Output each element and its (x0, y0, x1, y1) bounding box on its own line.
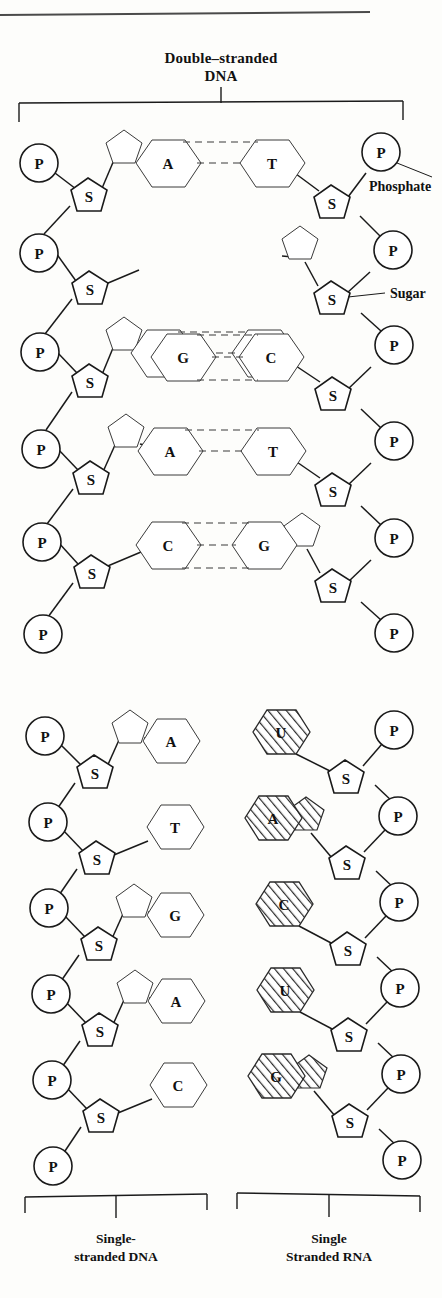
right-phosphate-nodes: P P P P P P (362, 133, 413, 652)
sugar-annotation: Sugar (348, 286, 426, 301)
base-label: A (166, 734, 177, 750)
phosphate-label: P (34, 156, 43, 172)
ssdna-bases: A T G A C (143, 719, 207, 1107)
sugar-label: S (346, 1115, 354, 1131)
phosphate-label: P (48, 1159, 57, 1175)
pentose-ring (117, 970, 153, 1003)
phosphate-label: P (40, 729, 49, 745)
sugar-label: S (95, 938, 103, 954)
base-label: A (171, 994, 182, 1010)
phosphate-label: P (46, 987, 55, 1003)
phosphate-label: P (388, 243, 397, 259)
base-label: C (279, 897, 290, 913)
phosphate-label: P (389, 434, 398, 450)
sugar-label: S (88, 566, 96, 582)
sugar-label: S (345, 1029, 353, 1045)
phosphate-annotation-label: Phosphate (369, 179, 431, 194)
pentose-ring (116, 884, 152, 917)
dna-rna-figure: Double–stranded DNA (0, 0, 442, 1298)
phosphate-label: P (389, 338, 398, 354)
right-sugar-nodes: S S S S S (314, 185, 351, 602)
phosphate-label: P (38, 627, 47, 643)
figure-title-line1: Double–stranded (164, 50, 277, 66)
sugar-label: S (86, 375, 94, 391)
double-stranded-bracket (19, 87, 403, 122)
double-stranded-dna-group: P P P P P P S S S S (20, 130, 432, 653)
ssdna-caption-bracket (25, 1194, 207, 1218)
single-stranded-dna-group: P P P P P P S S S S (26, 710, 207, 1185)
phosphate-label: P (37, 535, 46, 551)
ssdna-phosphate-nodes: P P P P P P (26, 717, 72, 1185)
phosphate-label: P (43, 815, 52, 831)
sugar-label: S (328, 292, 336, 308)
pentose-ring (106, 130, 142, 163)
ssdna-base-connectors (106, 738, 162, 1115)
ssdna-caption-line2: stranded DNA (74, 1249, 158, 1264)
base-label-left: A (163, 156, 174, 172)
ssrna-sugar-nodes: S S S S S (328, 760, 368, 1137)
sugar-label: S (342, 771, 350, 787)
phosphate-label: P (389, 531, 398, 547)
phosphate-label: P (34, 246, 43, 262)
phosphate-label: P (36, 442, 45, 458)
phosphate-label: P (396, 1067, 405, 1083)
phosphate-label: P (389, 723, 398, 739)
sugar-label: S (343, 857, 351, 873)
base-label: T (170, 820, 180, 836)
ssdna-sugar-nodes: S S S S S (77, 755, 119, 1132)
phosphate-label: P (44, 901, 53, 917)
ssrna-bases: U A C U G (245, 710, 314, 1098)
pentose-ring (282, 226, 318, 259)
base-label-left: A (165, 444, 176, 460)
sugar-label: S (87, 472, 95, 488)
sugar-label: S (329, 388, 337, 404)
single-stranded-rna-group: P P P P P P S S S S (245, 710, 421, 1179)
left-sugar-nodes: S S S S S (71, 178, 110, 588)
base-label-right: G (258, 538, 270, 554)
base-pair-row: A T (136, 140, 305, 187)
base-pair-row: G C (151, 334, 304, 381)
base-label: U (280, 983, 291, 999)
phosphate-label: P (394, 895, 403, 911)
sugar-label: S (85, 189, 93, 205)
base-label-left: C (163, 538, 174, 554)
base-label-left: G (177, 350, 189, 366)
sugar-label: S (329, 580, 337, 596)
phosphate-label: P (393, 809, 402, 825)
ssrna-phosphate-nodes: P P P P P P (375, 711, 421, 1179)
phosphate-label: P (47, 1073, 56, 1089)
figure-title-line2: DNA (204, 68, 237, 84)
base-label: U (276, 725, 287, 741)
base-pair-row: A T (138, 428, 306, 475)
base-label: G (270, 1069, 282, 1085)
sugar-label: S (86, 282, 94, 298)
phosphate-label: P (397, 1153, 406, 1169)
sugar-label: S (328, 196, 336, 212)
sugar-label: S (344, 943, 352, 959)
sugar-label: S (97, 1110, 105, 1126)
sugar-label: S (91, 766, 99, 782)
base-label: C (173, 1078, 184, 1094)
sugar-label: S (96, 1024, 104, 1040)
pentose-ring (112, 710, 148, 743)
base-label-right: T (267, 156, 277, 172)
base-pair-row: C G (136, 522, 297, 569)
phosphate-label: P (376, 145, 385, 161)
base-label-right: T (268, 444, 278, 460)
phosphate-label: P (389, 626, 398, 642)
base-label-right: C (266, 350, 277, 366)
ssrna-caption-bracket (237, 1193, 420, 1217)
dna-diagram-canvas: Double–stranded DNA (0, 0, 442, 1298)
sugar-label: S (93, 852, 101, 868)
ssdna-caption-line1: Single- (96, 1231, 136, 1246)
base-label: G (169, 908, 181, 924)
sugar-annotation-label: Sugar (390, 286, 426, 301)
ssrna-caption-line2: Stranded RNA (286, 1249, 372, 1264)
phosphate-label: P (395, 981, 404, 997)
pentose-ring (108, 414, 144, 447)
sugar-label: S (329, 484, 337, 500)
phosphate-label: P (35, 345, 44, 361)
ssrna-caption-line1: Single (311, 1231, 346, 1246)
top-divider-rule (0, 12, 370, 15)
base-label: A (268, 811, 279, 827)
